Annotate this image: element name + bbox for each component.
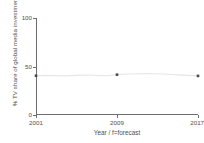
data-point-marker <box>116 73 119 76</box>
line-chart: % TV share of global media investment 05… <box>0 0 204 143</box>
x-axis-title: Year / f=forecast <box>36 129 198 136</box>
series-plot <box>0 0 204 143</box>
data-point-marker <box>197 75 200 78</box>
data-point-marker <box>35 74 38 77</box>
